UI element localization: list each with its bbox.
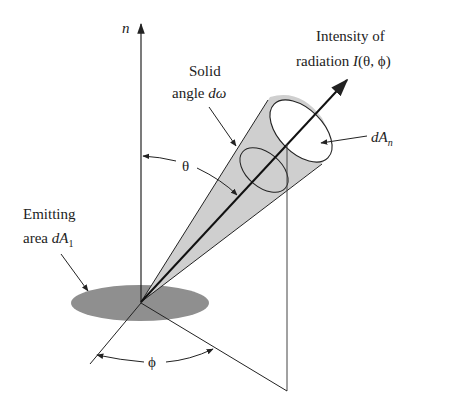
intensity-label-line2: radiation I(θ, ϕ)	[296, 53, 391, 70]
phi-label: ϕ	[148, 354, 156, 370]
theta-label: θ	[182, 158, 189, 174]
projection-base-line	[141, 303, 287, 391]
emitting-area-label-line2: area dA1	[23, 230, 73, 249]
theta-arc-left	[143, 156, 176, 161]
intensity-ray	[141, 80, 347, 302]
normal-axis-label: n	[122, 20, 130, 36]
intensity-label-line1: Intensity of	[316, 28, 385, 44]
phi-arc-right	[166, 349, 213, 362]
solid-angle-leader	[209, 107, 236, 146]
emitting-area-leader	[61, 254, 88, 291]
emitting-area-label-line1: Emitting	[23, 206, 76, 222]
phi-arc-left	[97, 355, 144, 362]
solid-angle-label-line2: angle dω	[172, 85, 226, 101]
emitting-area-ellipse	[71, 285, 209, 321]
dAn-label: dAn	[371, 129, 393, 148]
solid-angle-label-line1: Solid	[189, 63, 221, 79]
radiation-intensity-diagram: n Solid angle dω Intensity of radiation …	[0, 0, 449, 401]
